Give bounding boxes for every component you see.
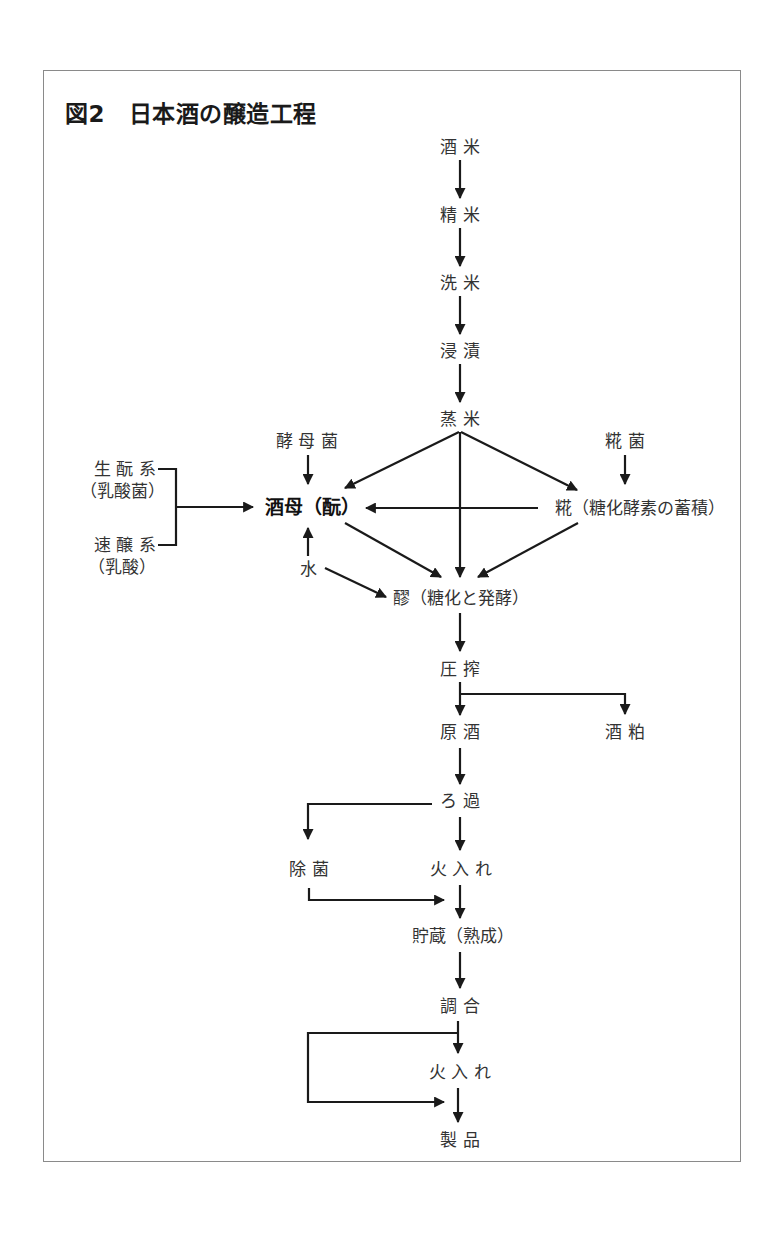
- node-kouji: 糀（糖化酵素の蓄積）: [555, 498, 725, 518]
- node-kimoto-sub: （乳酸菌）: [80, 481, 165, 501]
- brewing-flowchart: 酒 米 精 米 洗 米 浸 漬 蒸 米 酵 母 菌 糀 菌 生 酛 系 （乳酸菌…: [0, 0, 784, 1233]
- node-shubo: 酒母（酛）: [265, 496, 360, 518]
- node-senmai: 洗 米: [440, 273, 479, 293]
- node-seimai: 精 米: [440, 205, 479, 225]
- arrow-roka-jokin: [308, 804, 432, 839]
- node-jokin: 除 菌: [289, 859, 328, 879]
- node-sokujo: 速 醸 系: [94, 535, 156, 555]
- arrow-mushimai-shubo: [345, 432, 459, 488]
- node-hiire1: 火 入 れ: [430, 859, 492, 879]
- arrow-jokin-chozo: [309, 888, 444, 900]
- node-sokujo-sub: （乳酸）: [88, 557, 156, 577]
- node-sakekasu: 酒 粕: [605, 722, 644, 742]
- node-sakamai: 酒 米: [440, 137, 479, 157]
- arrow-mushimai-kouji: [461, 432, 577, 490]
- node-moromi: 醪（糖化と発酵）: [393, 588, 529, 608]
- node-hiire2: 火 入 れ: [429, 1062, 491, 1082]
- node-shinseki: 浸 漬: [440, 341, 479, 361]
- arrow-assaku-sakekasu: [460, 694, 625, 714]
- node-chozo: 貯蔵（熟成）: [412, 926, 514, 946]
- node-assaku: 圧 搾: [440, 659, 479, 679]
- node-koujikin: 糀 菌: [605, 431, 644, 451]
- node-seihin: 製 品: [440, 1130, 479, 1150]
- node-roka: ろ 過: [440, 791, 479, 811]
- node-koubokin: 酵 母 菌: [276, 431, 338, 451]
- arrow-kouji-moromi: [478, 523, 578, 577]
- node-chougou: 調 合: [440, 996, 479, 1016]
- node-genshu: 原 酒: [440, 722, 479, 742]
- node-mushimai: 蒸 米: [440, 409, 479, 429]
- node-kimoto: 生 酛 系: [94, 459, 156, 479]
- node-mizu: 水: [300, 559, 317, 579]
- arrow-mizu-moromi: [325, 568, 386, 597]
- arrow-shubo-moromi: [345, 523, 441, 577]
